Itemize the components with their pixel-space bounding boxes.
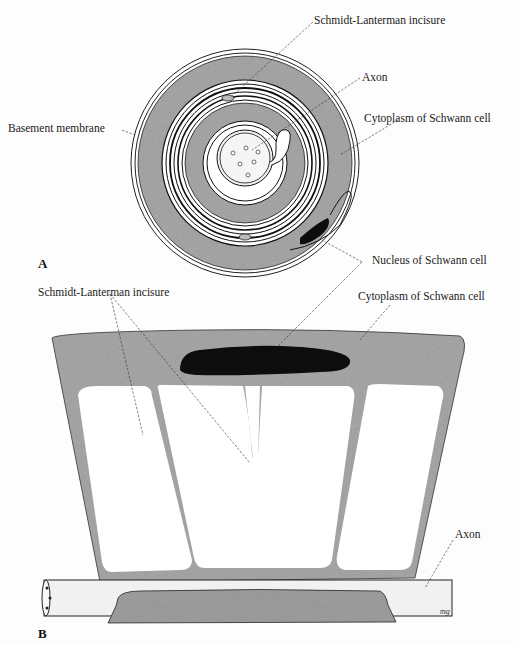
label-cytoplasm-a: Cytoplasm of Schwann cell: [364, 112, 491, 124]
panel-letter-a: A: [38, 256, 47, 272]
label-schmidt-lanterman-incisure-a: Schmidt-Lanterman incisure: [314, 14, 445, 26]
cross-section-panel-a: [131, 49, 359, 277]
schwann-cell-diagram: Schmidt-Lanterman incisure Axon Basement…: [0, 0, 519, 645]
label-schmidt-lanterman-incisure-b: Schmidt-Lanterman incisure: [38, 286, 169, 298]
label-nucleus-schwann-cell: Nucleus of Schwann cell: [372, 254, 487, 266]
diagram-artwork: [0, 0, 519, 645]
label-cytoplasm-b: Cytoplasm of Schwann cell: [358, 290, 485, 302]
panel-letter-b: B: [38, 626, 47, 642]
label-axon-b: Axon: [455, 528, 481, 540]
label-basement-membrane: Basement membrane: [8, 122, 105, 134]
label-axon-a: Axon: [362, 71, 388, 83]
artist-signature: mg: [440, 607, 450, 616]
unrolled-panel-b: [42, 330, 465, 623]
